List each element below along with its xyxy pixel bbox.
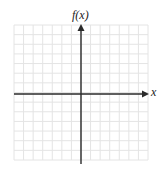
- x-axis-label: x: [151, 86, 156, 98]
- y-axis-label: f(x): [72, 9, 89, 21]
- graph-canvas: [0, 0, 164, 173]
